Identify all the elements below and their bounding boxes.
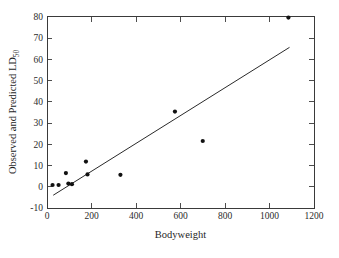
x-axis-ticks bbox=[47, 203, 314, 208]
data-point bbox=[201, 139, 205, 143]
y-tick-label: 60 bbox=[34, 55, 44, 65]
x-axis-title: Bodyweight bbox=[155, 229, 206, 240]
x-tick-label: 0 bbox=[45, 211, 50, 221]
x-axis-ticks-top bbox=[92, 17, 270, 22]
y-axis-title: Observed and Predicted LD50 bbox=[7, 50, 21, 175]
y-tick-label: 80 bbox=[34, 12, 44, 22]
data-point bbox=[84, 160, 88, 164]
y-tick-label: 20 bbox=[34, 140, 44, 150]
data-point bbox=[50, 183, 54, 187]
y-tick-label: 50 bbox=[34, 76, 44, 86]
x-tick-label: 600 bbox=[173, 211, 188, 221]
data-point bbox=[66, 181, 70, 185]
y-tick-label: 70 bbox=[34, 33, 44, 43]
y-axis-ticks bbox=[47, 17, 52, 208]
data-point bbox=[85, 172, 89, 176]
x-tick-label: 1200 bbox=[305, 211, 324, 221]
data-point bbox=[70, 182, 74, 186]
data-points-group bbox=[50, 15, 290, 187]
y-tick-label: 40 bbox=[34, 97, 44, 107]
plot-frame bbox=[47, 17, 314, 209]
data-point bbox=[118, 173, 122, 177]
y-axis-title-subscript: 50 bbox=[13, 50, 21, 58]
x-tick-label: 200 bbox=[84, 211, 99, 221]
y-tick-label: 30 bbox=[34, 118, 44, 128]
data-point bbox=[64, 171, 68, 175]
y-tick-label: -10 bbox=[30, 203, 43, 213]
plot-canvas: 0 200 400 600 800 1000 1200 -10 0 10 20 … bbox=[0, 0, 339, 258]
x-tick-label: 1000 bbox=[260, 211, 279, 221]
data-point bbox=[173, 110, 177, 114]
y-tick-label: 0 bbox=[38, 182, 43, 192]
x-tick-label: 400 bbox=[129, 211, 144, 221]
data-point bbox=[286, 15, 290, 19]
x-tick-label: 800 bbox=[218, 211, 233, 221]
y-axis-title-group: Observed and Predicted LD50 bbox=[7, 50, 21, 175]
y-tick-labels: -10 0 10 20 30 40 50 60 70 80 bbox=[30, 12, 43, 213]
scatter-plot-figure: 0 200 400 600 800 1000 1200 -10 0 10 20 … bbox=[0, 0, 339, 258]
x-tick-labels: 0 200 400 600 800 1000 1200 bbox=[45, 211, 324, 221]
y-axis-title-main: Observed and Predicted LD bbox=[7, 57, 18, 174]
y-axis-ticks-right bbox=[309, 38, 314, 187]
data-point bbox=[56, 183, 60, 187]
y-tick-label: 10 bbox=[34, 161, 44, 171]
